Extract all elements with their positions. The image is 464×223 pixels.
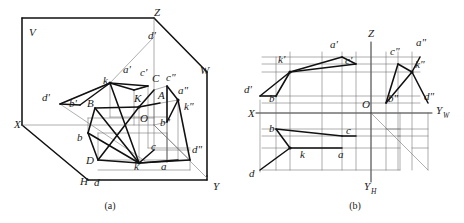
label-a-d: d <box>94 176 100 188</box>
edge-a-BK <box>95 107 139 108</box>
edge-b-h-dk <box>260 148 290 170</box>
node-b-kprime <box>288 70 291 73</box>
label-axis-y-a: Y <box>213 180 221 192</box>
label-b-a: a <box>338 148 344 160</box>
label-plane-w: W <box>200 64 210 76</box>
label-b-bprime: b' <box>269 92 278 104</box>
label-a-a: a <box>161 160 167 172</box>
label-b-kprime: k' <box>278 53 286 65</box>
label-a-cprime: c' <box>140 66 148 78</box>
edge-a-Bb <box>88 108 95 133</box>
label-b-dprime: d' <box>244 83 253 95</box>
edge-b-v-ka <box>290 57 342 72</box>
label-axis-x-b: X <box>247 107 256 119</box>
label-origin-b: O <box>362 98 370 110</box>
label-a-adq: a" <box>178 84 189 96</box>
edge-a-Dk <box>98 160 139 163</box>
mitre-45-line <box>371 113 428 170</box>
diagram-b-labels: Z X O Y W Y H a' c" a" k' c' k" d' b' b"… <box>244 27 450 196</box>
label-plane-v: V <box>29 26 37 38</box>
label-b-b: b <box>269 122 275 134</box>
edge-b-h-bc <box>276 129 342 136</box>
label-b-aprime: a' <box>330 38 339 50</box>
node-a-k-v <box>108 81 111 84</box>
label-a-b: b <box>77 131 83 143</box>
ray-dprime-low <box>60 104 145 161</box>
node-b-kdq <box>410 70 413 73</box>
label-a-A: A <box>157 89 165 101</box>
diagram-a-projection-rays <box>60 37 190 170</box>
label-b-d: d <box>249 167 255 179</box>
label-a-aprime: a' <box>123 63 132 75</box>
label-axis-yw-sub: W <box>443 111 450 120</box>
edge-a-bk <box>88 133 139 163</box>
figure-captions: (a) (b) <box>104 200 360 212</box>
label-axis-z-b: Z <box>368 27 375 39</box>
label-b-cprime: c' <box>345 54 353 66</box>
node-a-k-w <box>176 98 179 101</box>
caption-b: (b) <box>349 200 361 212</box>
label-b-kdq: k" <box>415 58 425 70</box>
label-b-adq: a" <box>416 36 427 48</box>
label-a-dprime-left: d' <box>42 91 51 103</box>
label-b-k: k <box>300 148 306 160</box>
ray-dprime-k <box>110 37 154 83</box>
label-axis-x-a: X <box>13 118 22 130</box>
label-b-ddq: d" <box>424 90 435 102</box>
label-b-c: c <box>346 124 351 136</box>
label-a-bprime: b' <box>69 97 78 109</box>
label-a-c: c <box>151 140 156 152</box>
label-a-D: D <box>85 154 94 166</box>
caption-a: (a) <box>104 200 115 212</box>
diagram-a-canvas: V W H X Y Z O d' a' c' k C c" A a" K k" … <box>0 0 464 223</box>
diagram-b-nodes <box>288 70 413 149</box>
node-b-k <box>288 146 291 149</box>
label-a-B: B <box>87 97 94 109</box>
node-a-K <box>137 105 140 108</box>
diagram-b-frontal-view <box>260 57 356 96</box>
label-axis-yh-sub: H <box>370 187 377 196</box>
label-b-bdq: b" <box>388 92 399 104</box>
label-axis-yh-b: Y H <box>364 180 377 196</box>
label-a-K: K <box>133 92 142 104</box>
edge-a-w-ca <box>167 86 178 100</box>
edge-b-v-bk <box>276 72 290 96</box>
label-axis-yw-b: Y W <box>436 104 450 120</box>
figure-root: V W H X Y Z O d' a' c' k C c" A a" K k" … <box>0 0 464 223</box>
diagram-a-solid-edges <box>60 83 190 163</box>
label-a-ddq: d" <box>192 143 203 155</box>
label-b-cdq: c" <box>390 45 400 57</box>
label-a-C: C <box>152 72 160 84</box>
label-origin-a: O <box>140 112 148 124</box>
label-a-kdq: k" <box>184 100 194 112</box>
label-plane-h: H <box>79 175 89 187</box>
edge-b-h-bk <box>276 129 290 148</box>
label-a-bdq: b" <box>160 116 171 128</box>
label-a-cdq: c" <box>166 71 176 83</box>
edge-b-w-ca <box>398 64 412 72</box>
label-axis-z-a: Z <box>154 6 161 18</box>
label-a-dprime-top: d' <box>148 29 157 41</box>
diagram-b-construction-lines <box>260 52 428 172</box>
